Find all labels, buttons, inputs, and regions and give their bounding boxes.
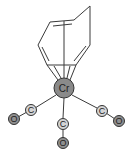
oxygen-label: O [59, 138, 66, 148]
carbon-label: C [60, 119, 67, 129]
oxygen-label: O [10, 114, 17, 124]
carbon-label: C [28, 105, 35, 115]
chromium-atom: Cr [54, 78, 74, 98]
ring-metal-bonds [47, 65, 76, 80]
carbon-label: C [99, 106, 106, 116]
chromium-label: Cr [59, 83, 70, 94]
structure-canvas: Cr C O C O C O [0, 0, 136, 158]
oxygen-label: O [115, 116, 122, 126]
molecule-diagram: Cr C O C O C O [0, 0, 136, 158]
cycloheptatriene-ring [38, 6, 90, 78]
